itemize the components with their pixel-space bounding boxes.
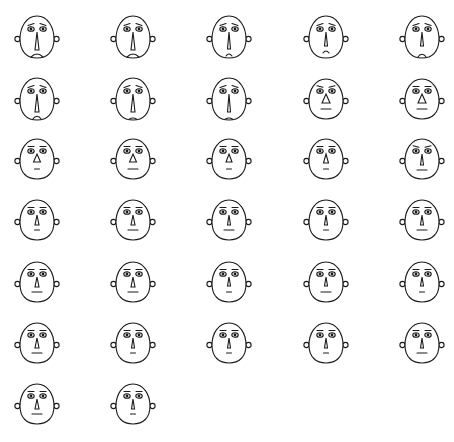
right-ear-icon bbox=[343, 342, 348, 347]
left-ear-icon bbox=[304, 281, 309, 286]
face-22 bbox=[103, 254, 163, 310]
face-12 bbox=[103, 131, 163, 187]
face-28 bbox=[199, 315, 259, 371]
left-ear-icon bbox=[207, 281, 212, 286]
left-pupil bbox=[415, 273, 418, 276]
chernoff-faces-chart bbox=[0, 0, 454, 442]
left-pupil bbox=[126, 150, 129, 153]
left-pupil bbox=[126, 28, 129, 31]
face-24 bbox=[296, 254, 356, 310]
left-pupil bbox=[319, 90, 322, 93]
left-pupil bbox=[30, 90, 33, 93]
left-pupil bbox=[30, 211, 33, 214]
right-pupil bbox=[42, 273, 45, 276]
face-20 bbox=[392, 192, 452, 248]
face-1 bbox=[7, 9, 67, 65]
head-outline bbox=[212, 323, 246, 363]
head-outline bbox=[309, 79, 343, 119]
head-outline bbox=[20, 139, 54, 179]
left-ear-icon bbox=[304, 342, 309, 347]
left-pupil bbox=[319, 334, 322, 337]
right-ear-icon bbox=[343, 281, 348, 286]
face-13 bbox=[199, 131, 259, 187]
right-ear-icon bbox=[54, 403, 59, 408]
right-pupil bbox=[42, 90, 45, 93]
head-outline bbox=[20, 200, 54, 240]
right-ear-icon bbox=[150, 36, 155, 41]
left-pupil bbox=[319, 273, 322, 276]
head-outline bbox=[116, 200, 150, 240]
head-outline bbox=[405, 200, 439, 240]
face-27 bbox=[103, 315, 163, 371]
head-outline bbox=[20, 16, 54, 58]
left-ear-icon bbox=[15, 403, 20, 408]
head-outline bbox=[20, 262, 54, 302]
left-ear-icon bbox=[15, 281, 20, 286]
right-pupil bbox=[234, 334, 237, 337]
face-5 bbox=[392, 9, 452, 65]
face-21 bbox=[7, 254, 67, 310]
left-pupil bbox=[222, 90, 225, 93]
left-ear-icon bbox=[207, 158, 212, 163]
right-ear-icon bbox=[439, 36, 444, 41]
left-ear-icon bbox=[207, 36, 212, 41]
head-outline bbox=[20, 323, 54, 363]
left-pupil bbox=[319, 211, 322, 214]
face-18 bbox=[199, 192, 259, 248]
right-pupil bbox=[234, 273, 237, 276]
left-ear-icon bbox=[304, 219, 309, 224]
right-pupil bbox=[138, 150, 141, 153]
right-ear-icon bbox=[54, 36, 59, 41]
head-outline bbox=[405, 262, 439, 302]
right-ear-icon bbox=[150, 158, 155, 163]
right-ear-icon bbox=[150, 403, 155, 408]
head-outline bbox=[309, 200, 343, 240]
right-pupil bbox=[331, 211, 334, 214]
left-ear-icon bbox=[111, 98, 116, 103]
right-ear-icon bbox=[150, 342, 155, 347]
face-25 bbox=[392, 254, 452, 310]
face-30 bbox=[392, 315, 452, 371]
right-pupil bbox=[331, 150, 334, 153]
right-pupil bbox=[234, 211, 237, 214]
face-7 bbox=[103, 71, 163, 127]
right-ear-icon bbox=[54, 281, 59, 286]
right-ear-icon bbox=[54, 342, 59, 347]
left-pupil bbox=[415, 28, 418, 31]
right-pupil bbox=[234, 28, 237, 31]
left-ear-icon bbox=[111, 403, 116, 408]
right-pupil bbox=[138, 90, 141, 93]
face-14 bbox=[296, 131, 356, 187]
left-ear-icon bbox=[207, 219, 212, 224]
right-pupil bbox=[42, 150, 45, 153]
right-pupil bbox=[234, 150, 237, 153]
left-pupil bbox=[30, 28, 33, 31]
right-ear-icon bbox=[343, 219, 348, 224]
right-ear-icon bbox=[439, 158, 444, 163]
left-pupil bbox=[415, 90, 418, 93]
left-pupil bbox=[30, 395, 33, 398]
right-pupil bbox=[427, 90, 430, 93]
left-pupil bbox=[415, 334, 418, 337]
right-pupil bbox=[427, 273, 430, 276]
left-ear-icon bbox=[400, 98, 405, 103]
left-ear-icon bbox=[400, 219, 405, 224]
head-outline bbox=[20, 384, 54, 424]
left-pupil bbox=[126, 273, 129, 276]
head-outline bbox=[212, 200, 246, 240]
left-pupil bbox=[222, 211, 225, 214]
right-pupil bbox=[42, 334, 45, 337]
face-11 bbox=[7, 131, 67, 187]
left-ear-icon bbox=[400, 158, 405, 163]
left-pupil bbox=[126, 334, 129, 337]
right-ear-icon bbox=[343, 158, 348, 163]
left-ear-icon bbox=[304, 98, 309, 103]
left-pupil bbox=[30, 273, 33, 276]
left-ear-icon bbox=[15, 158, 20, 163]
head-outline bbox=[20, 78, 54, 120]
right-ear-icon bbox=[246, 36, 251, 41]
face-3 bbox=[199, 9, 259, 65]
right-ear-icon bbox=[150, 281, 155, 286]
head-outline bbox=[309, 262, 343, 302]
face-29 bbox=[296, 315, 356, 371]
